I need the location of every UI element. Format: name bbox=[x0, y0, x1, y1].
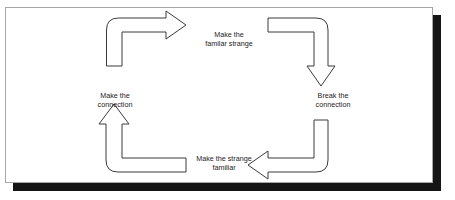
arrow-top-right-icon bbox=[268, 18, 335, 86]
figure-panel: Make the familar strange Break the conne… bbox=[5, 7, 433, 183]
arrow-bottom-left-icon bbox=[99, 104, 186, 172]
stage-label-break-connection: Break the connection bbox=[287, 92, 379, 109]
stage-label-make-strange-familiar: Make the strange familiar bbox=[178, 155, 270, 172]
clipped-top-caption bbox=[36, 0, 336, 3]
figure-root: Make the familar strange Break the conne… bbox=[0, 0, 455, 200]
stage-label-make-connection: Make the connection bbox=[69, 92, 161, 109]
arrow-top-left-icon bbox=[107, 11, 187, 66]
stage-label-make-familiar-strange: Make the familar strange bbox=[183, 31, 275, 48]
